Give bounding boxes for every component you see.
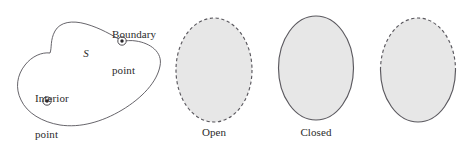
caption-closed: Closed [286, 126, 346, 138]
caption-neither: Neither open nor closed [378, 126, 460, 150]
boundary-point-label: Boundary point [112, 4, 182, 100]
oval-open [176, 18, 252, 122]
boundary-point-label-line1: Boundary [112, 28, 182, 40]
interior-point-label-line2: point [35, 128, 105, 140]
oval-closed [279, 16, 354, 120]
set-label-s: S [79, 47, 93, 59]
topology-figure: Boundary point Interior point S Open Clo… [0, 0, 472, 150]
oval-neither [381, 18, 456, 122]
interior-point-label: Interior point [35, 68, 105, 150]
interior-point-label-line1: Interior [35, 92, 105, 104]
caption-open: Open [184, 126, 244, 138]
boundary-point-label-line2: point [112, 64, 182, 76]
